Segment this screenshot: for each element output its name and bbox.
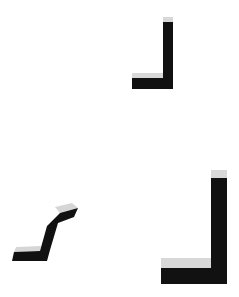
large-l-vertical-highlight — [211, 170, 227, 178]
slanted-body — [12, 208, 78, 261]
large-l-shape — [161, 170, 227, 284]
small-l-body — [132, 22, 173, 89]
slanted-z-shape — [12, 203, 78, 261]
small-l-shape — [132, 17, 173, 89]
large-l-horizontal-highlight — [161, 258, 211, 268]
shapes-canvas — [0, 0, 239, 297]
small-l-horizontal-highlight — [132, 73, 163, 78]
small-l-vertical-highlight — [163, 17, 173, 22]
large-l-body — [161, 178, 227, 284]
slanted-bottom-highlight — [14, 246, 41, 252]
